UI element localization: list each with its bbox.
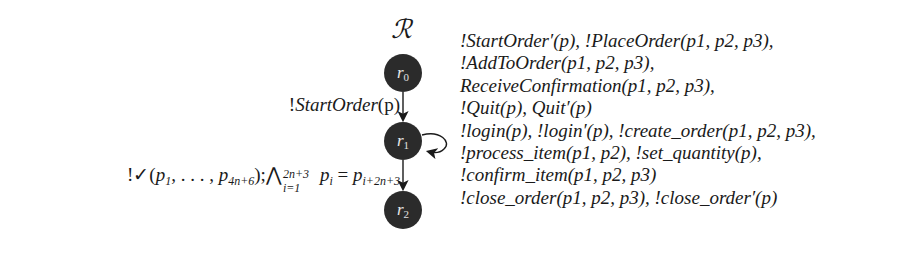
state-r1: r1	[384, 122, 422, 160]
state-r2-label: r2	[397, 200, 409, 220]
loop-label-line: !confirm_item(p1, p2, p3)	[460, 164, 816, 186]
state-r0-label: r0	[397, 63, 409, 83]
edge-label-r0-r1: !StartOrder(p)	[289, 94, 400, 116]
loop-label-line: !process_item(p1, p2), !set_quantity(p),	[460, 142, 816, 164]
loop-label-line: !AddToOrder(p1, p2, p3),	[460, 52, 816, 74]
loop-label-line: !login(p), !login′(p), !create_order(p1,…	[460, 120, 816, 142]
loop-label-line: ReceiveConfirmation(p1, p2, p3),	[460, 75, 816, 97]
bigwedge-symbol: ⋀	[266, 164, 282, 185]
loop-label-line: !Quit(p), Quit′(p)	[460, 97, 816, 119]
state-r1-label: r1	[397, 131, 409, 151]
state-r2: r2	[384, 191, 422, 229]
self-loop-label-r1: !StartOrder′(p), !PlaceOrder(p1, p2, p3)…	[460, 30, 816, 209]
edge-label-r1-r2: !✓(p1, . . . , p4n+6);⋀2n+3i=1pi = pi+2n…	[127, 163, 400, 186]
loop-label-line: !close_order(p1, p2, p3), !close_order′(…	[460, 187, 816, 209]
self-loop-r1	[422, 134, 447, 153]
state-r0: r0	[384, 54, 422, 92]
loop-label-line: !StartOrder′(p), !PlaceOrder(p1, p2, p3)…	[460, 30, 816, 52]
